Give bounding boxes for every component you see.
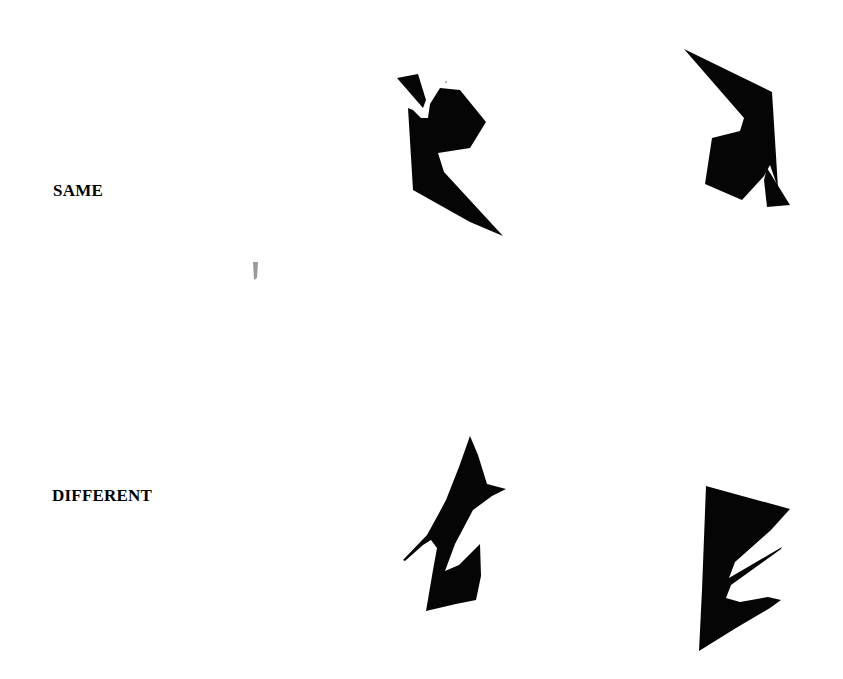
- scan-artifact: [253, 262, 258, 280]
- figure-canvas: [0, 0, 843, 679]
- different-left-shape: [403, 436, 506, 611]
- different-right-shape: [699, 486, 790, 651]
- same-left-shape: [397, 74, 503, 236]
- same-right-shape: [684, 49, 790, 207]
